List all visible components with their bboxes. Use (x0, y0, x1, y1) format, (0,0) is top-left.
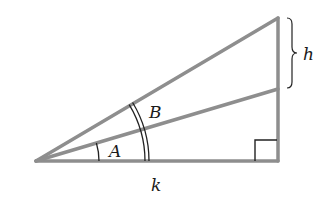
height-brace (287, 18, 297, 88)
triangle (36, 18, 278, 161)
label-angle-b: B (149, 104, 162, 121)
hypotenuse (36, 18, 278, 161)
right-angle-mark (255, 140, 277, 161)
angle-a-arc (96, 143, 99, 161)
label-height: h (303, 46, 314, 63)
triangle-diagram: A B h k (0, 0, 326, 204)
inner-ray (36, 89, 278, 161)
label-angle-a: A (109, 143, 121, 160)
label-base: k (151, 177, 161, 194)
